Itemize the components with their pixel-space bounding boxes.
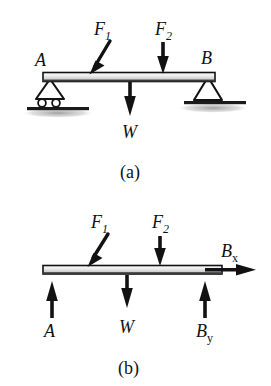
label-force-f1-b-subscript: 1 (102, 222, 108, 236)
beam-b (43, 266, 222, 275)
beam-a (43, 73, 215, 82)
label-force-f2-b-subscript: 2 (163, 222, 169, 236)
ground-line-left (27, 107, 89, 110)
caption-panel-b: (b) (118, 358, 139, 379)
label-force-f2-a-subscript: 2 (166, 29, 172, 43)
caption-panel-a: (a) (120, 162, 140, 183)
ground-shadow-right (176, 103, 250, 113)
label-reaction-by-b-subscript: y (207, 331, 213, 345)
label-force-w-a: W (122, 122, 139, 142)
beam-underline-a (43, 80, 215, 82)
label-support-a: A (34, 50, 47, 70)
label-reaction-by-b-base: B (196, 321, 207, 341)
label-force-f1-a-subscript: 1 (105, 29, 111, 43)
label-reaction-a-b: A (43, 321, 56, 341)
label-reaction-bx-b-base: B (221, 241, 232, 261)
ground-line-right (184, 101, 246, 104)
label-support-b: B (201, 48, 212, 68)
roller-wheel-right (52, 99, 60, 107)
label-reaction-bx-b-subscript: x (232, 251, 238, 265)
beam-diagram-svg: A B F1 F2 W (a) (0, 0, 271, 386)
label-force-w-b: W (119, 317, 136, 337)
beam-underline-b (43, 272, 222, 274)
figure-container: A B F1 F2 W (a) (0, 0, 271, 386)
roller-wheel-left (38, 99, 46, 107)
